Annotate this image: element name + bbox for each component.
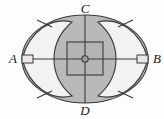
edge-marker-b bbox=[137, 55, 148, 63]
center-point-circle bbox=[82, 56, 88, 62]
vertex-label-b: B bbox=[153, 51, 161, 66]
ellipse-diagram-svg: A B C D bbox=[0, 0, 164, 119]
edge-marker-a bbox=[22, 55, 33, 63]
vertex-label-a: A bbox=[8, 51, 17, 66]
vertex-label-d: D bbox=[79, 103, 90, 118]
figure-container: A B C D bbox=[0, 0, 164, 119]
vertex-label-c: C bbox=[81, 1, 90, 16]
